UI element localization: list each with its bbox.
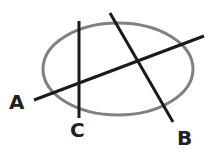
intersecting-lines-diagram: A B C (0, 0, 213, 154)
line-a (34, 36, 204, 100)
label-c: C (70, 118, 85, 142)
label-b: B (177, 126, 192, 150)
label-a: A (9, 90, 25, 114)
